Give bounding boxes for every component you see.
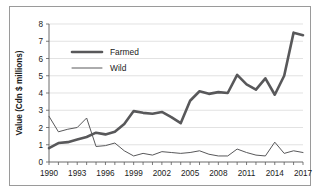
y-tick-label: 6 <box>38 55 43 64</box>
y-tick-label: 1 <box>38 141 43 150</box>
y-axis-label: Value (Cdn $ millions) <box>15 50 24 135</box>
x-tick-label: 2008 <box>209 169 228 178</box>
y-tick-label: 3 <box>38 106 43 115</box>
legend-label-farmed: Farmed <box>110 47 139 57</box>
x-tick-label: 1999 <box>125 169 144 178</box>
y-tick-label: 7 <box>38 37 43 46</box>
y-tick-label: 8 <box>38 20 43 29</box>
x-tick-label: 1993 <box>68 169 87 178</box>
y-tick-label: 5 <box>38 72 43 81</box>
y-tick-label: 4 <box>38 89 43 98</box>
x-tick-label: 2014 <box>266 169 285 178</box>
x-tick-label: 2002 <box>153 169 172 178</box>
x-tick-label: 1990 <box>40 169 59 178</box>
series-line-farmed <box>49 33 303 149</box>
y-tick-label: 2 <box>38 124 43 133</box>
legend-label-wild: Wild <box>110 63 127 73</box>
x-tick-label: 2011 <box>238 169 256 178</box>
line-chart: 0123456781990199319961999200220052008201… <box>0 0 320 194</box>
x-tick-label: 2017 <box>294 169 313 178</box>
chart-figure: 0123456781990199319961999200220052008201… <box>0 0 320 194</box>
y-tick-label: 0 <box>38 158 43 167</box>
x-tick-label: 1996 <box>96 169 115 178</box>
x-tick-label: 2005 <box>181 169 200 178</box>
